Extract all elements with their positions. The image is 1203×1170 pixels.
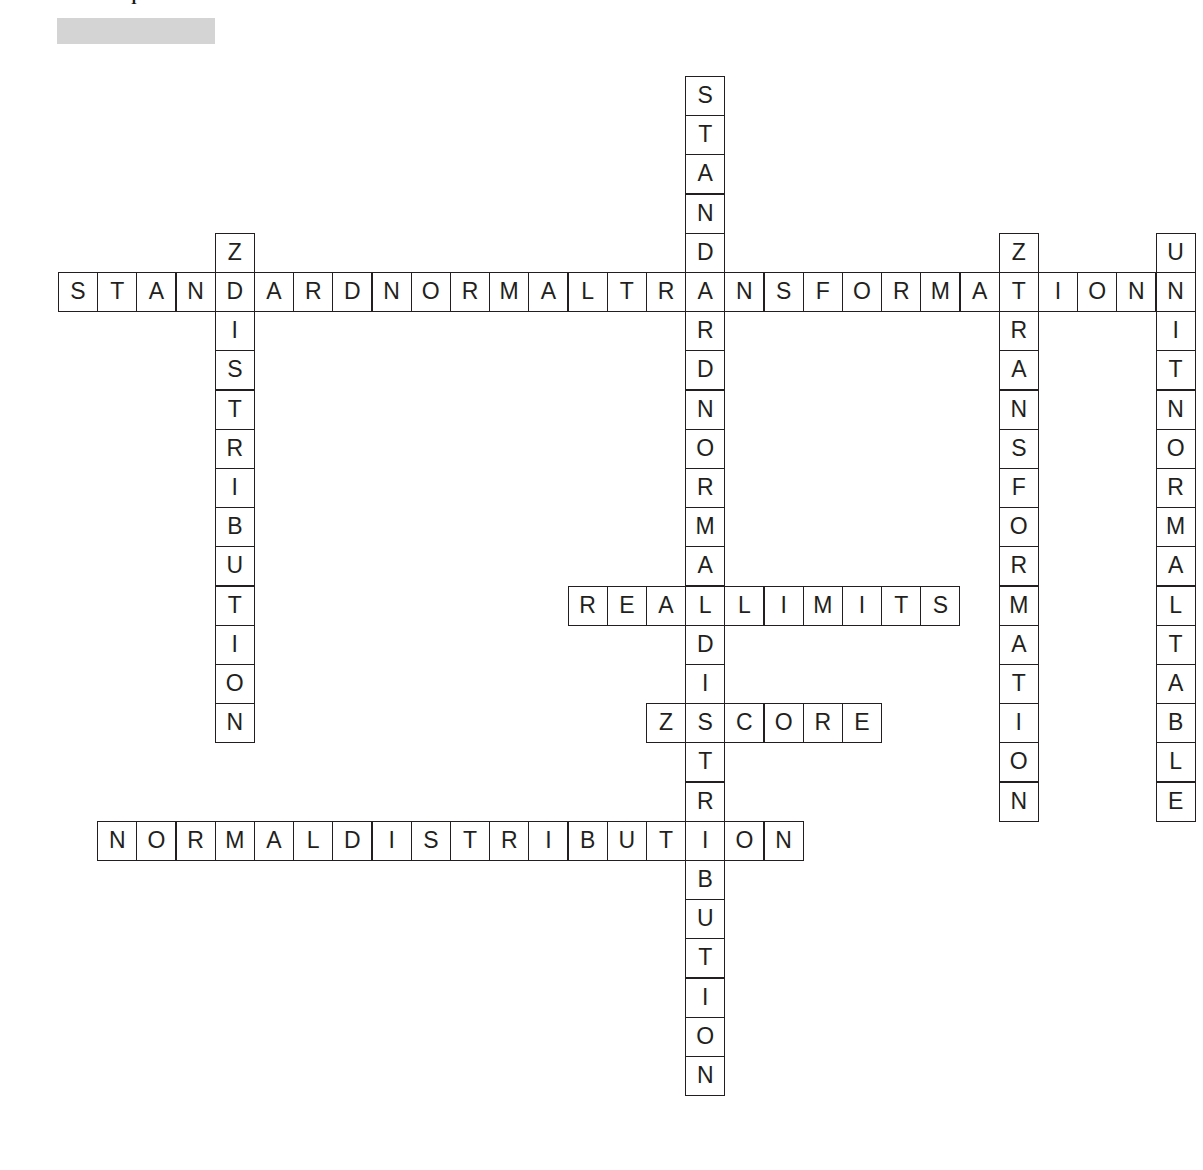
crossword-cell[interactable]: T <box>881 586 921 626</box>
crossword-cell[interactable]: O <box>764 703 804 743</box>
crossword-cell[interactable]: B <box>568 821 608 861</box>
crossword-cell[interactable]: S <box>999 429 1039 469</box>
crossword-cell[interactable]: I <box>685 978 725 1018</box>
crossword-cell[interactable]: R <box>568 586 608 626</box>
crossword-cell[interactable]: Z <box>646 703 686 743</box>
crossword-cell[interactable]: N <box>764 821 804 861</box>
crossword-cell[interactable]: L <box>1156 586 1196 626</box>
crossword-cell[interactable]: N <box>97 821 137 861</box>
crossword-cell[interactable]: S <box>685 703 725 743</box>
crossword-cell[interactable]: R <box>293 272 333 312</box>
crossword-cell[interactable]: T <box>685 115 725 155</box>
crossword-cell[interactable]: O <box>411 272 451 312</box>
crossword-cell[interactable]: M <box>685 507 725 547</box>
crossword-cell[interactable]: S <box>764 272 804 312</box>
crossword-cell[interactable]: O <box>215 664 255 704</box>
crossword-cell[interactable]: A <box>646 586 686 626</box>
crossword-cell[interactable]: R <box>803 703 843 743</box>
crossword-cell[interactable]: Z <box>215 233 255 273</box>
crossword-cell[interactable]: B <box>215 507 255 547</box>
crossword-cell[interactable]: I <box>215 311 255 351</box>
crossword-cell[interactable]: O <box>999 507 1039 547</box>
crossword-cell[interactable]: M <box>1156 507 1196 547</box>
crossword-cell[interactable]: O <box>685 1017 725 1057</box>
crossword-cell[interactable]: A <box>960 272 1000 312</box>
crossword-cell[interactable]: I <box>842 586 882 626</box>
crossword-cell[interactable]: N <box>685 1056 725 1096</box>
crossword-cell[interactable]: O <box>685 429 725 469</box>
crossword-cell[interactable]: I <box>1038 272 1078 312</box>
crossword-cell[interactable]: N <box>685 390 725 430</box>
crossword-cell[interactable]: A <box>999 350 1039 390</box>
crossword-cell[interactable]: C <box>724 703 764 743</box>
crossword-cell[interactable]: R <box>999 546 1039 586</box>
crossword-cell[interactable]: M <box>215 821 255 861</box>
crossword-cell[interactable]: N <box>999 782 1039 822</box>
crossword-cell[interactable]: L <box>568 272 608 312</box>
crossword-cell[interactable]: L <box>724 586 764 626</box>
crossword-cell[interactable]: N <box>176 272 216 312</box>
crossword-cell[interactable]: T <box>607 272 647 312</box>
crossword-cell[interactable]: I <box>1156 311 1196 351</box>
crossword-cell[interactable]: T <box>97 272 137 312</box>
crossword-cell[interactable]: R <box>450 272 490 312</box>
crossword-cell[interactable]: B <box>1156 703 1196 743</box>
crossword-cell[interactable]: S <box>215 350 255 390</box>
crossword-cell[interactable]: T <box>685 742 725 782</box>
crossword-cell[interactable]: A <box>136 272 176 312</box>
crossword-cell[interactable]: O <box>724 821 764 861</box>
crossword-cell[interactable]: F <box>999 468 1039 508</box>
crossword-cell[interactable]: S <box>58 272 98 312</box>
crossword-cell[interactable]: A <box>685 154 725 194</box>
crossword-cell[interactable]: U <box>685 899 725 939</box>
crossword-cell[interactable]: T <box>1156 350 1196 390</box>
crossword-cell[interactable]: E <box>607 586 647 626</box>
crossword-cell[interactable]: L <box>1156 742 1196 782</box>
crossword-cell[interactable]: T <box>215 586 255 626</box>
crossword-cell[interactable]: U <box>607 821 647 861</box>
crossword-cell[interactable]: M <box>920 272 960 312</box>
crossword-cell[interactable]: L <box>293 821 333 861</box>
crossword-cell[interactable]: E <box>842 703 882 743</box>
crossword-cell[interactable]: N <box>372 272 412 312</box>
crossword-cell[interactable]: I <box>215 468 255 508</box>
crossword-cell[interactable]: R <box>685 782 725 822</box>
crossword-cell[interactable]: O <box>136 821 176 861</box>
crossword-cell[interactable]: A <box>254 272 294 312</box>
crossword-cell[interactable]: T <box>685 938 725 978</box>
crossword-cell[interactable]: R <box>176 821 216 861</box>
crossword-cell[interactable]: T <box>450 821 490 861</box>
crossword-cell[interactable]: S <box>920 586 960 626</box>
crossword-cell[interactable]: U <box>215 546 255 586</box>
crossword-cell[interactable]: N <box>1116 272 1156 312</box>
crossword-cell[interactable]: D <box>215 272 255 312</box>
crossword-cell[interactable]: A <box>999 625 1039 665</box>
crossword-cell[interactable]: D <box>332 821 372 861</box>
crossword-cell[interactable]: O <box>842 272 882 312</box>
crossword-cell[interactable]: A <box>685 272 725 312</box>
crossword-cell[interactable]: T <box>999 664 1039 704</box>
crossword-cell[interactable]: U <box>1156 233 1196 273</box>
crossword-cell[interactable]: I <box>685 821 725 861</box>
crossword-cell[interactable]: B <box>685 860 725 900</box>
crossword-cell[interactable]: R <box>646 272 686 312</box>
crossword-cell[interactable]: D <box>685 233 725 273</box>
crossword-cell[interactable]: R <box>489 821 529 861</box>
crossword-cell[interactable]: I <box>764 586 804 626</box>
crossword-cell[interactable]: D <box>685 625 725 665</box>
crossword-cell[interactable]: S <box>411 821 451 861</box>
crossword-cell[interactable]: R <box>1156 468 1196 508</box>
crossword-cell[interactable]: R <box>881 272 921 312</box>
crossword-cell[interactable]: E <box>1156 782 1196 822</box>
crossword-cell[interactable]: A <box>1156 664 1196 704</box>
crossword-cell[interactable]: A <box>685 546 725 586</box>
crossword-cell[interactable]: N <box>685 194 725 234</box>
crossword-cell[interactable]: T <box>215 390 255 430</box>
crossword-cell[interactable]: D <box>332 272 372 312</box>
crossword-cell[interactable]: N <box>1156 272 1196 312</box>
crossword-cell[interactable]: T <box>999 272 1039 312</box>
crossword-cell[interactable]: R <box>999 311 1039 351</box>
crossword-cell[interactable]: I <box>999 703 1039 743</box>
crossword-cell[interactable]: T <box>1156 625 1196 665</box>
crossword-cell[interactable]: N <box>215 703 255 743</box>
